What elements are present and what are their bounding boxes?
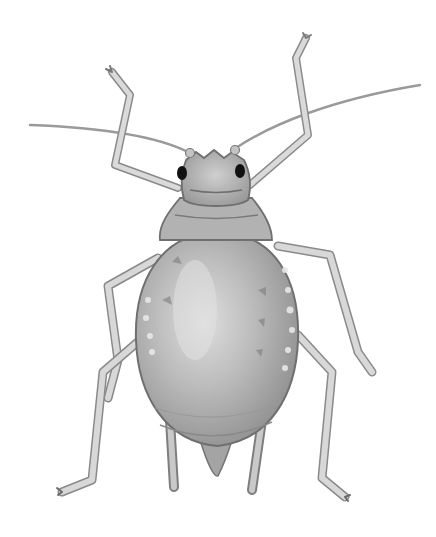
right-antenna <box>236 85 420 148</box>
head <box>177 146 250 207</box>
abdomen <box>136 232 298 446</box>
aphid-illustration <box>0 0 436 537</box>
antennae <box>30 85 420 152</box>
left-eye <box>177 166 187 180</box>
right-eye <box>235 164 245 178</box>
left-antenna <box>30 125 188 152</box>
left-front-claw <box>106 66 112 72</box>
right-antenna-base <box>231 146 240 155</box>
left-antenna-base <box>186 149 195 158</box>
